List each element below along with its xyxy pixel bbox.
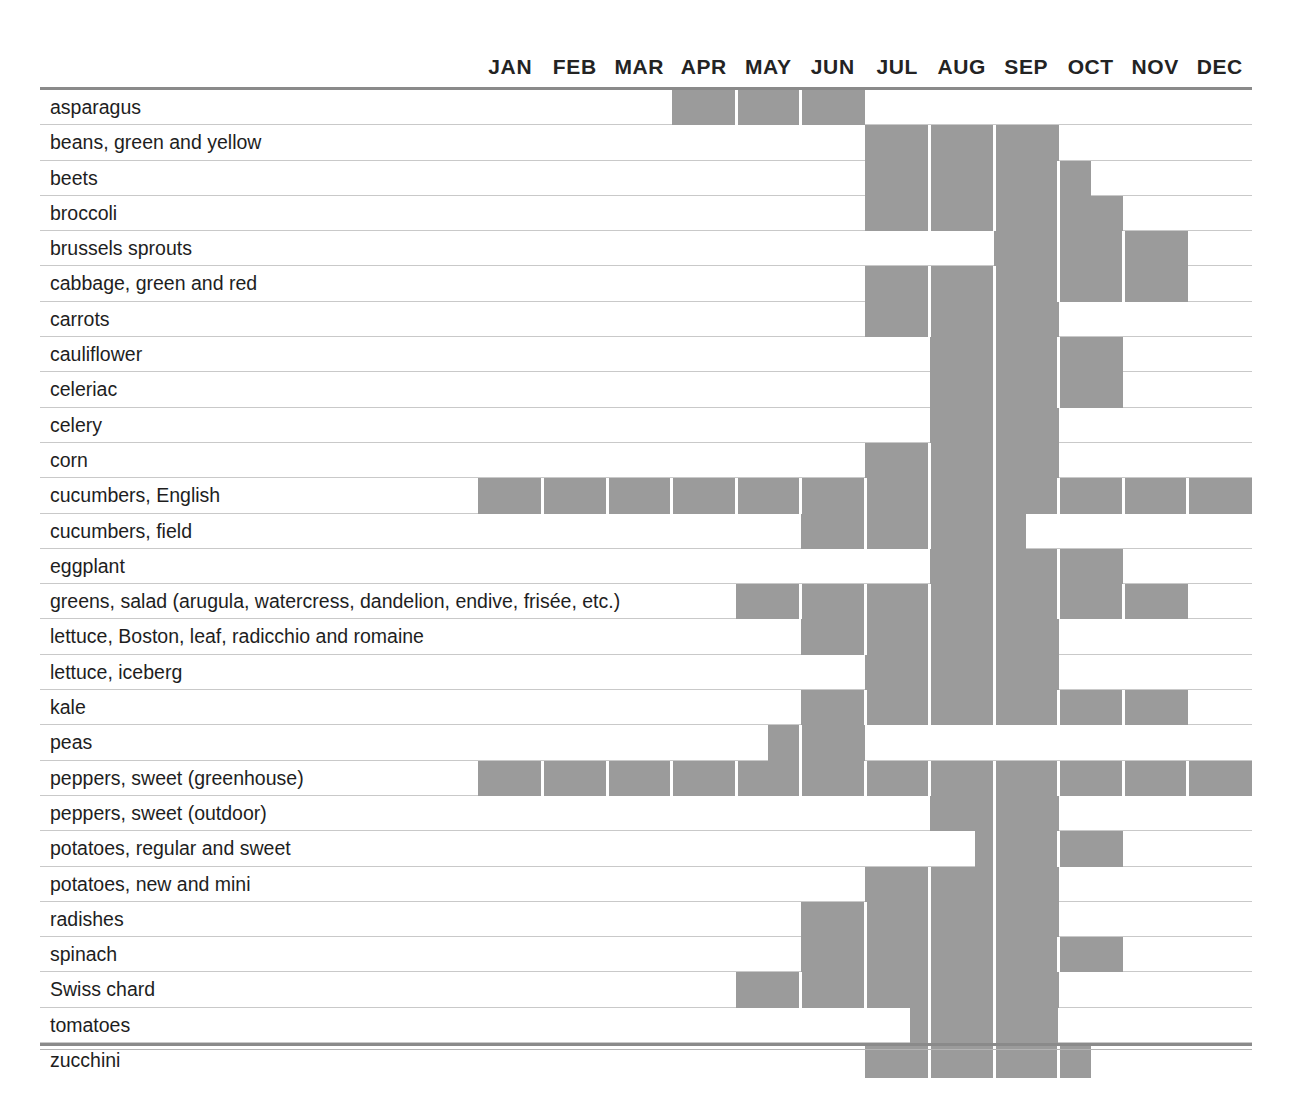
month-separator [928,972,931,1007]
row-label: Swiss chard [50,972,155,1007]
availability-bars [478,690,1252,725]
availability-bar [930,549,1124,584]
month-separator [993,690,996,725]
table-bottom-border [40,1043,1252,1046]
month-separator [799,584,802,619]
month-separator [670,478,673,513]
month-separator [928,125,931,160]
month-separator [993,266,996,301]
month-header-jan: JAN [478,52,543,86]
row-label: celeriac [50,372,117,407]
row-label: brussels sprouts [50,231,192,266]
chart-row: celery [40,408,1252,443]
row-label: potatoes, new and mini [50,867,251,902]
month-separator [928,1008,931,1043]
availability-bars [478,1008,1252,1043]
row-label: beets [50,161,98,196]
chart-row: carrots [40,302,1252,337]
month-header-jul: JUL [865,52,930,86]
chart-row: peppers, sweet (outdoor) [40,796,1252,831]
availability-bars [478,372,1252,407]
month-separator [864,937,867,972]
chart-row: corn [40,443,1252,478]
availability-bar [975,831,1123,866]
month-separator [993,937,996,972]
month-header-aug: AUG [930,52,995,86]
chart-row: celeriac [40,372,1252,407]
availability-bar [865,125,1059,160]
row-label: celery [50,408,102,443]
month-header-mar: MAR [607,52,672,86]
availability-bars [478,231,1252,266]
month-header-nov: NOV [1123,52,1188,86]
chart-row: Swiss chard [40,972,1252,1007]
chart-row: cucumbers, field [40,514,1252,549]
chart-row: peppers, sweet (greenhouse) [40,761,1252,796]
chart-row: potatoes, new and mini [40,867,1252,902]
chart-row: kale [40,690,1252,725]
availability-bar [930,337,1124,372]
month-separator [928,443,931,478]
chart-row: peas [40,725,1252,760]
availability-bars [478,478,1252,513]
chart-row: cucumbers, English [40,478,1252,513]
month-separator [928,584,931,619]
chart-row: lettuce, Boston, leaf, radicchio and rom… [40,619,1252,654]
month-header-jun: JUN [801,52,866,86]
month-separator [993,196,996,231]
chart-row: radishes [40,902,1252,937]
month-separator [864,619,867,654]
row-label: asparagus [50,90,141,125]
availability-bar [910,1008,1058,1043]
month-separator [1057,831,1060,866]
month-separator [1122,761,1125,796]
row-label: lettuce, iceberg [50,655,182,690]
month-separator [799,972,802,1007]
month-separator [735,90,738,125]
month-separator [993,902,996,937]
availability-bars [478,584,1252,619]
row-label: cauliflower [50,337,142,372]
chart-row: broccoli [40,196,1252,231]
month-header-apr: APR [672,52,737,86]
row-label: cucumbers, English [50,478,220,513]
month-separator [993,1008,996,1043]
availability-bars [478,831,1252,866]
row-label: peppers, sweet (outdoor) [50,796,267,831]
availability-bars [478,902,1252,937]
month-separator [928,867,931,902]
month-separator [993,514,996,549]
month-separator [1057,372,1060,407]
row-label: carrots [50,302,110,337]
month-header-feb: FEB [543,52,608,86]
availability-bar [736,972,1059,1007]
availability-bars [478,937,1252,972]
availability-bars [478,125,1252,160]
chart-row: asparagus [40,90,1252,125]
month-separator [1057,584,1060,619]
availability-bars [478,867,1252,902]
month-separator [1057,266,1060,301]
row-label: beans, green and yellow [50,125,261,160]
chart-row: cabbage, green and red [40,266,1252,301]
month-separator [1057,690,1060,725]
availability-bars [478,266,1252,301]
month-separator [799,90,802,125]
month-separator [993,796,996,831]
chart-row: potatoes, regular and sweet [40,831,1252,866]
month-separator [1122,478,1125,513]
availability-bar [801,937,1124,972]
availability-bar [672,90,866,125]
table-bottom-border-thin [40,1049,1252,1050]
month-separator [864,514,867,549]
month-separator [993,655,996,690]
availability-bars [478,725,1252,760]
availability-bars [478,408,1252,443]
month-separator [1057,478,1060,513]
availability-bars [478,796,1252,831]
month-separator [799,725,802,760]
month-separator [928,514,931,549]
month-separator [928,761,931,796]
month-header-may: MAY [736,52,801,86]
month-separator [993,549,996,584]
